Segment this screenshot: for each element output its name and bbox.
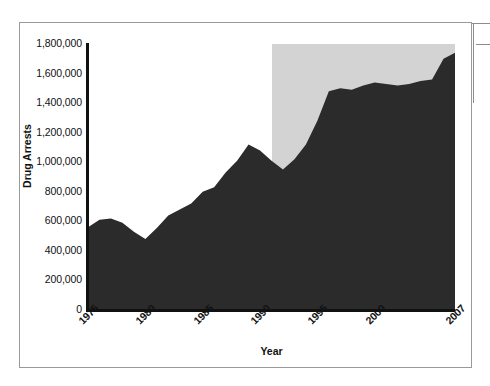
x-tick-label: 1995 [305, 302, 329, 326]
x-axis-title: Year [88, 345, 455, 357]
x-tick-label: 1980 [133, 302, 157, 326]
x-axis-tick-labels: 1975198019851990199520002007 [0, 0, 490, 386]
x-tick-label: 1985 [191, 302, 215, 326]
x-tick-label: 1975 [76, 302, 100, 326]
x-tick-label: 1990 [248, 302, 272, 326]
x-tick-label: 2007 [443, 302, 467, 326]
x-tick-label: 2000 [363, 302, 387, 326]
